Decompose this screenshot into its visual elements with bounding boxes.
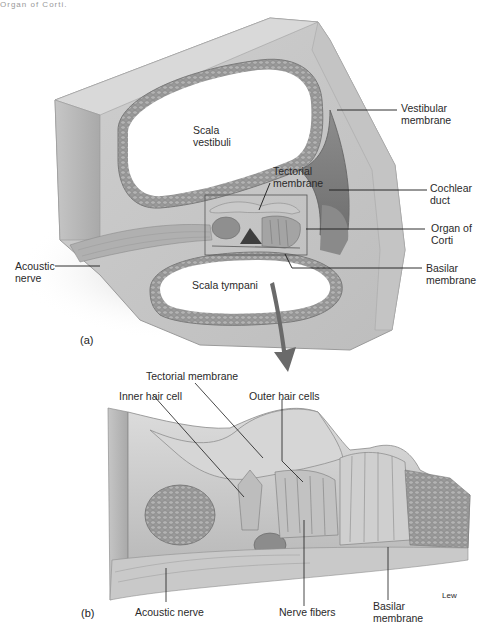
label-line-1: Vestibular [401, 102, 451, 114]
label-scala-tympani: Scala tympani [192, 279, 258, 291]
label-cochlear-duct: Cochlear duct [430, 182, 472, 206]
label-inner-hair-cell: Inner hair cell [119, 390, 182, 402]
label-acoustic-nerve-a: Acoustic nerve [15, 260, 55, 284]
label-line-1: Organ of [431, 222, 472, 234]
label-vestibular-membrane: Vestibular membrane [401, 102, 451, 126]
label-outer-hair-cells: Outer hair cells [249, 390, 320, 402]
label-line-2: membrane [401, 114, 451, 126]
label-scala-vestibuli: Scala vestibuli [193, 124, 231, 148]
label-line-2: vestibuli [193, 136, 231, 148]
label-line-2: Corti [431, 234, 472, 246]
panel-label-a: (a) [80, 334, 93, 346]
label-line-1: Scala [193, 124, 231, 136]
artist-signature: Lew [442, 590, 457, 602]
label-nerve-fibers: Nerve fibers [279, 606, 336, 618]
label-line-2: membrane [426, 274, 476, 286]
label-acoustic-nerve-b: Acoustic nerve [135, 606, 204, 618]
label-line-1: Acoustic [15, 260, 55, 272]
label-tectorial-membrane-b: Tectorial membrane [146, 370, 238, 382]
panel-label-b: (b) [81, 607, 94, 619]
label-line-1: Tectorial [273, 165, 323, 177]
label-line-2: duct [430, 194, 472, 206]
label-line-2: membrane [273, 177, 323, 189]
label-basilar-membrane-a: Basilar membrane [426, 262, 476, 286]
cochlea-diagram: Organ of Corti. [0, 0, 484, 628]
label-line-2: membrane [373, 612, 423, 624]
label-tectorial-membrane-a: Tectorial membrane [273, 165, 323, 189]
label-organ-of-corti: Organ of Corti [431, 222, 472, 246]
label-line-1: Basilar [426, 262, 476, 274]
label-line-2: nerve [15, 272, 55, 284]
label-line-1: Cochlear [430, 182, 472, 194]
label-line-1: Basilar [373, 600, 423, 612]
label-basilar-membrane-b: Basilar membrane [373, 600, 423, 624]
cochlea-illustration [0, 0, 484, 628]
